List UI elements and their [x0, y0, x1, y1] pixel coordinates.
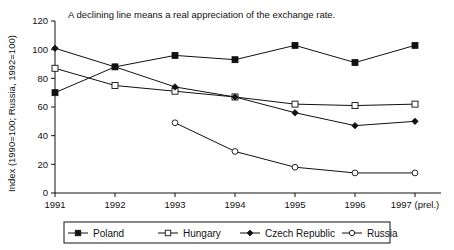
legend-item-czech-republic[interactable]: Czech Republic — [240, 228, 335, 239]
legend-items: PolandHungaryCzech RepublicRussia — [68, 228, 398, 239]
y-axis-label: Index (1990=100; Russia, 1992=100) — [6, 35, 17, 192]
series-hungary — [52, 65, 418, 108]
exchange-rate-line-chart: A declining line means a real appreciati… — [0, 0, 454, 250]
legend-marker-open-square-icon — [165, 230, 171, 236]
data-point-marker — [232, 57, 238, 63]
data-point-marker — [292, 101, 298, 107]
y-tick-label: 60 — [37, 101, 48, 112]
data-point-marker — [292, 164, 298, 170]
x-axis-ticks: 1991199219931994199519961997 (prel.) — [44, 193, 439, 210]
legend-marker-open-circle-icon — [349, 230, 354, 235]
data-point-marker — [52, 45, 58, 51]
data-point-marker — [292, 42, 298, 48]
series-line — [55, 45, 415, 92]
chart-canvas: A declining line means a real appreciati… — [0, 0, 454, 250]
chart-title: A declining line means a real appreciati… — [68, 9, 335, 20]
legend-item-label: Hungary — [183, 228, 221, 239]
series-poland — [52, 42, 418, 95]
data-point-marker — [352, 122, 358, 128]
chart-legend: PolandHungaryCzech RepublicRussia — [64, 222, 398, 243]
series-russia — [172, 120, 418, 176]
data-point-marker — [412, 170, 418, 176]
y-tick-label: 100 — [32, 44, 48, 55]
legend-item-poland[interactable]: Poland — [68, 228, 124, 239]
data-point-marker — [352, 60, 358, 66]
x-tick-label: 1991 — [44, 199, 65, 210]
data-point-marker — [412, 42, 418, 48]
y-axis-ticks: 020406080100120 — [32, 15, 55, 198]
axis-lines — [55, 21, 441, 193]
y-tick-label: 20 — [37, 159, 48, 170]
x-tick-label: 1992 — [104, 199, 125, 210]
data-point-marker — [232, 149, 238, 155]
legend-item-label: Czech Republic — [265, 228, 335, 239]
x-tick-label: 1995 — [284, 199, 305, 210]
legend-item-russia[interactable]: Russia — [342, 228, 398, 239]
x-tick-label: 1997 (prel.) — [391, 199, 440, 210]
y-tick-label: 120 — [32, 15, 48, 26]
data-point-marker — [292, 110, 298, 116]
x-tick-label: 1994 — [224, 199, 245, 210]
legend-marker-filled-diamond-icon — [247, 230, 253, 236]
data-point-marker — [172, 52, 178, 58]
data-point-marker — [52, 90, 58, 96]
legend-item-hungary[interactable]: Hungary — [158, 228, 221, 239]
legend-item-label: Poland — [93, 228, 124, 239]
y-tick-label: 0 — [43, 187, 48, 198]
y-tick-label: 80 — [37, 73, 48, 84]
x-tick-label: 1993 — [164, 199, 185, 210]
data-point-marker — [112, 83, 118, 89]
x-tick-label: 1996 — [344, 199, 365, 210]
data-series-layer — [52, 42, 418, 175]
data-point-marker — [352, 170, 358, 176]
data-point-marker — [52, 65, 58, 71]
data-point-marker — [412, 118, 418, 124]
y-tick-label: 40 — [37, 130, 48, 141]
data-point-marker — [412, 101, 418, 107]
legend-marker-filled-square-icon — [75, 230, 81, 236]
data-point-marker — [172, 120, 178, 126]
legend-item-label: Russia — [367, 228, 398, 239]
data-point-marker — [352, 103, 358, 109]
